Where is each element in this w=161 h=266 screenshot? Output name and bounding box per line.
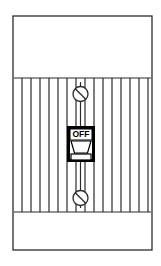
rocker-lower-gap [71, 154, 91, 160]
figure-canvas: OFF [0, 0, 161, 266]
light-switch[interactable]: OFF [69, 128, 94, 161]
light-switch-figure: Wall light switch in OFF position OFF [0, 0, 161, 266]
rocker-paddle[interactable] [71, 141, 91, 153]
top-mounting-screw [73, 87, 88, 102]
switch-state-label: OFF [73, 129, 90, 139]
bottom-mounting-screw [73, 191, 88, 206]
